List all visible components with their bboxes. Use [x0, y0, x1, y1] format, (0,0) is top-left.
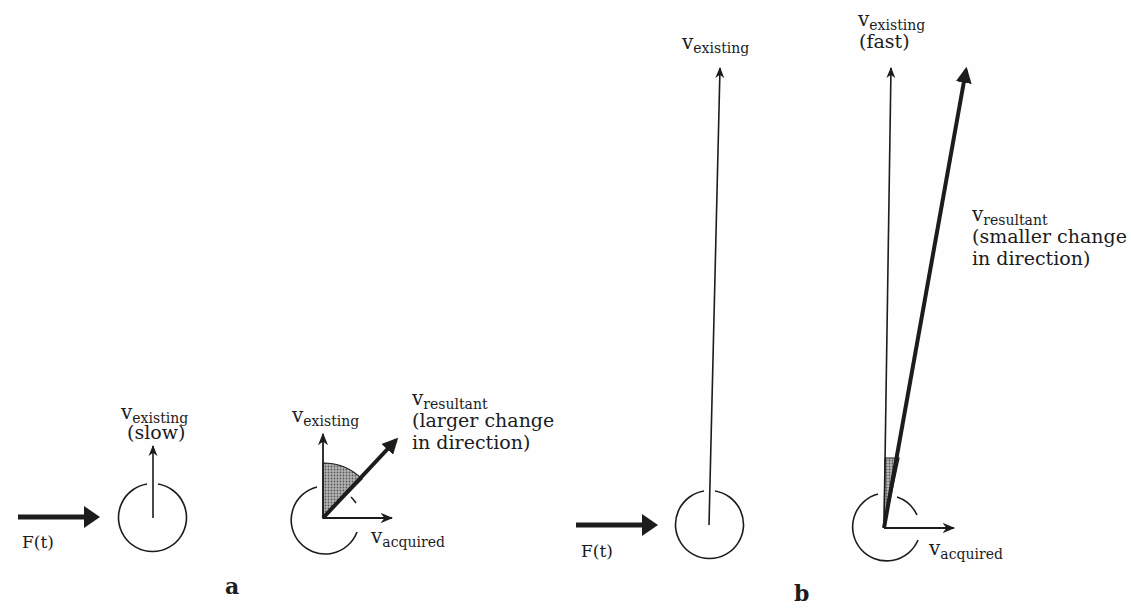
particle-a-initial [119, 446, 187, 552]
larger-change-note-line1: (larger change [412, 408, 554, 432]
force-label-a: F(t) [22, 532, 54, 552]
panel-label-a: a [225, 573, 239, 599]
smaller-change-note-line1: (smaller change [972, 224, 1127, 248]
larger-change-note-line2: in direction) [412, 430, 530, 454]
force-label-b: F(t) [581, 541, 613, 561]
particle-b-initial [676, 68, 744, 559]
fast-qualifier-label: (fast) [859, 29, 910, 53]
force-arrow-a [18, 506, 100, 528]
slow-qualifier-label: (slow) [127, 420, 185, 444]
diagram-graphics [0, 0, 1131, 614]
v-acquired-label-b: vacquired [929, 536, 1003, 562]
force-arrow-b [576, 514, 658, 536]
panel-label-b: b [794, 580, 809, 606]
smaller-change-note-line2: in direction) [972, 246, 1090, 270]
vector-addition-b [853, 68, 966, 561]
v-existing-label-a: vexisting [292, 403, 359, 429]
velocity-vector-diagram: F(t) vexisting (slow) vexisting vresulta… [0, 0, 1131, 614]
v-acquired-label-a: vacquired [371, 524, 445, 550]
v-existing-label-b-initial: vexisting [682, 30, 749, 56]
